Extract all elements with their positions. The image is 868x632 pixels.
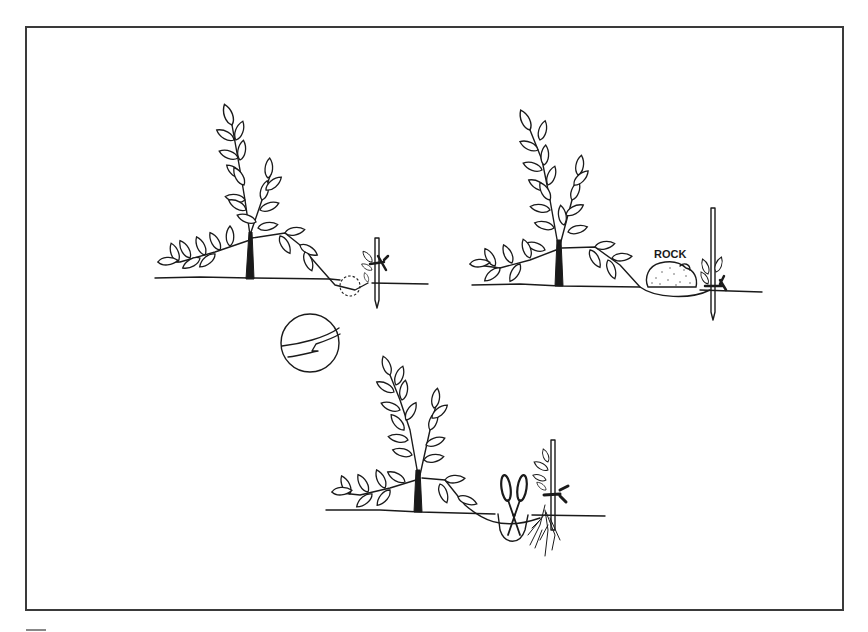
layering-illustration: ROCK: [0, 0, 868, 632]
shrub-trunk: [246, 232, 254, 279]
shrub-trunk: [414, 470, 422, 512]
stake: [375, 238, 379, 308]
panel-detail-magnified: [281, 314, 340, 372]
pruning-shears-icon: [500, 475, 529, 535]
panel-step-1: [155, 103, 428, 308]
shrub-leaves: [332, 355, 478, 510]
shrub-trunk: [555, 240, 563, 286]
shrub-leaves: [158, 103, 320, 272]
shrub-leaves: [470, 108, 633, 283]
detail-marker-circle: [340, 276, 360, 296]
panel-step-2: ROCK: [470, 108, 762, 320]
stake: [711, 208, 715, 320]
stake: [551, 440, 555, 530]
caption-cutoff: [26, 629, 46, 631]
rock-label: ROCK: [654, 248, 686, 260]
panel-step-3: [326, 355, 605, 556]
tie: [544, 486, 568, 502]
